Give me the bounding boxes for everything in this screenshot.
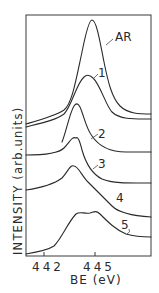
curve-4 <box>26 166 151 217</box>
x-tick-label-442: 442 <box>32 260 64 274</box>
curve-3 <box>26 138 151 183</box>
curve-ar <box>26 20 151 124</box>
plot-frame <box>26 15 151 256</box>
label-4: 4 <box>116 191 124 205</box>
x-tick-label-445: 445 <box>83 260 115 274</box>
curve-5 <box>26 212 151 254</box>
label-1: 1 <box>98 66 106 80</box>
x-axis-title: BE (eV) <box>70 273 122 287</box>
label-5: 5 <box>121 218 129 232</box>
label-2: 2 <box>98 127 106 141</box>
label-ar: AR <box>115 30 132 44</box>
y-axis-title: INTENSITY (arb.units) <box>11 115 25 255</box>
curve-1 <box>26 75 151 127</box>
label-3: 3 <box>98 157 106 171</box>
curve-2 <box>62 104 151 152</box>
leader-ar <box>106 39 113 45</box>
